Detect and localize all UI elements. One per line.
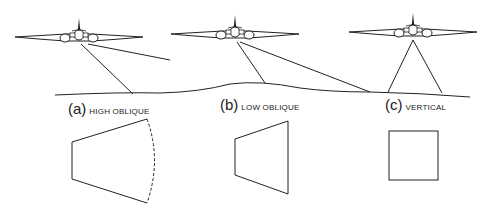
panel-b-label: (b)LOW OBLIQUE (220, 96, 300, 114)
panel-c-title: VERTICAL (406, 103, 447, 112)
view-ray-c-right (413, 40, 442, 93)
aircraft-a-icon (15, 18, 143, 42)
panel-a-label: (a)HIGH OBLIQUE (68, 100, 150, 118)
footprint-vertical (389, 131, 438, 180)
footprint-high-oblique (72, 119, 147, 203)
panel-a-title: HIGH OBLIQUE (89, 107, 149, 116)
panel-a-letter: (a) (68, 100, 86, 117)
footprint-low-oblique (235, 121, 288, 194)
aircraft-c-icon (349, 13, 477, 37)
panel-b-letter: (b) (220, 96, 238, 113)
view-ray-b-lower (237, 42, 265, 83)
view-ray-b-upper (240, 42, 370, 92)
view-ray-c-left (388, 40, 413, 92)
panel-c-letter: (c) (385, 96, 403, 113)
ground-line (55, 83, 470, 97)
aircraft-b-icon (171, 15, 299, 39)
panel-b-title: LOW OBLIQUE (241, 103, 299, 112)
footprint-high-oblique-far-edge (147, 119, 155, 203)
panel-c-label: (c)VERTICAL (385, 96, 446, 114)
view-ray-a-upper (88, 44, 170, 60)
